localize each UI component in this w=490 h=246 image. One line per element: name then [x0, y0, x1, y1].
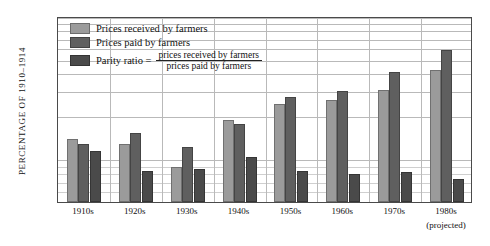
- x-axis-tick-label: 1920s: [109, 206, 161, 216]
- legend-label-prices-paid: Prices paid by farmers: [96, 36, 190, 49]
- legend-swatch-prices-received: [70, 23, 90, 34]
- x-axis-tick-label-text: 1960s: [332, 206, 354, 216]
- legend-label-prices-received: Prices received by farmers: [96, 22, 208, 35]
- x-axis-tick-label-text: 1930s: [176, 206, 198, 216]
- parity-formula-denominator: prices paid by farmers: [163, 61, 254, 71]
- x-axis-tick-label-text: 1980s: [435, 206, 457, 216]
- legend-swatch-prices-paid: [70, 37, 90, 48]
- chart-figure: PERCENTAGE OF 1910–1914 5060708090100200…: [0, 0, 490, 246]
- y-axis-title: PERCENTAGE OF 1910–1914: [17, 26, 27, 196]
- x-axis-tick-label-text: 1970s: [383, 206, 405, 216]
- x-axis-tick-label: 1930s: [161, 206, 213, 216]
- legend-item-prices-paid: Prices paid by farmers: [70, 36, 262, 49]
- chart-legend: Prices received by farmers Prices paid b…: [70, 22, 262, 72]
- x-axis-tick-label-text: 1950s: [280, 206, 302, 216]
- legend-swatch-parity-ratio: [70, 55, 90, 66]
- x-axis-tick-label: 1940s: [213, 206, 265, 216]
- parity-ratio-formula: prices received by farmers prices paid b…: [156, 50, 263, 71]
- x-axis-tick-label-text: 1940s: [228, 206, 250, 216]
- x-axis-tick-labels: 1910s1920s1930s1940s1950s1960s1970s1980s…: [57, 206, 472, 244]
- x-axis-tick-label: 1980s(projected): [420, 206, 472, 230]
- x-axis-tick-sublabel: (projected): [420, 220, 472, 230]
- x-axis-tick-label: 1970s: [368, 206, 420, 216]
- legend-item-prices-received: Prices received by farmers: [70, 22, 262, 35]
- x-axis-tick-label: 1950s: [265, 206, 317, 216]
- x-axis-tick-label-text: 1910s: [72, 206, 94, 216]
- parity-formula-numerator: prices received by farmers: [156, 50, 263, 61]
- x-axis-tick-label: 1960s: [316, 206, 368, 216]
- x-axis-tick-label: 1910s: [57, 206, 109, 216]
- x-axis-tick-label-text: 1920s: [124, 206, 146, 216]
- legend-label-parity-ratio: Parity ratio =: [96, 54, 152, 67]
- legend-item-parity-ratio: Parity ratio = prices received by farmer…: [70, 50, 262, 71]
